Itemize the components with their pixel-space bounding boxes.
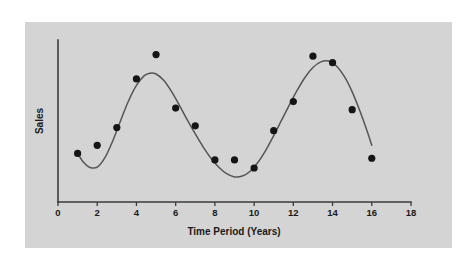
data-point: [368, 155, 375, 162]
x-tick-label-4: 4: [134, 207, 140, 218]
data-point: [270, 127, 277, 134]
data-point: [309, 53, 316, 60]
x-tick-label-14: 14: [327, 207, 338, 218]
x-tick-label-12: 12: [288, 207, 299, 218]
figure-root: 024681012141618 Time Period (Years) Sale…: [0, 0, 476, 266]
x-tick-label-8: 8: [212, 207, 217, 218]
data-point: [94, 142, 101, 149]
data-point: [211, 156, 218, 163]
data-point: [192, 122, 199, 129]
x-tick-label-2: 2: [95, 207, 100, 218]
data-point: [290, 98, 297, 105]
y-axis-title: Sales: [34, 107, 45, 134]
x-tick-label-16: 16: [366, 207, 377, 218]
x-tick-label-0: 0: [55, 207, 60, 218]
data-point: [172, 104, 179, 111]
data-point: [152, 51, 159, 58]
fitted-trend-curve: [78, 61, 372, 177]
x-tick-label-18: 18: [406, 207, 417, 218]
data-point: [349, 106, 356, 113]
scatter-chart: 024681012141618 Time Period (Years) Sale…: [0, 0, 476, 266]
x-tick-label-6: 6: [173, 207, 178, 218]
x-tick-label-10: 10: [249, 207, 260, 218]
data-point: [329, 59, 336, 66]
x-axis-tick-labels: 024681012141618: [55, 207, 416, 218]
data-points-group: [74, 51, 375, 172]
data-point: [231, 156, 238, 163]
data-point: [74, 150, 81, 157]
x-axis-title: Time Period (Years): [187, 226, 280, 237]
data-point: [133, 75, 140, 82]
data-point: [251, 164, 258, 171]
axes-group: [58, 40, 411, 202]
data-point: [113, 124, 120, 131]
